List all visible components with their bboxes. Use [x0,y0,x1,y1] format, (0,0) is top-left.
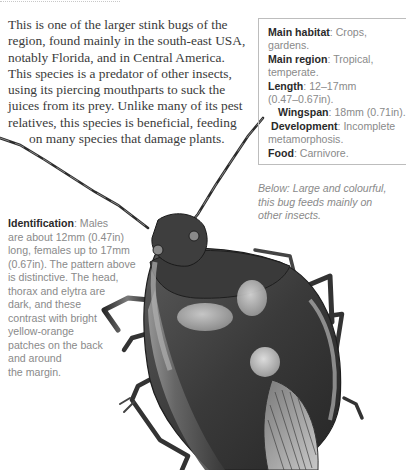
caption-line: this bug feeds mainly on [258,196,403,210]
caption-line: Below: Large and colourful, [258,182,403,196]
intro-line: relatives, this species is beneficial, f… [8,115,248,131]
identification-line: long, females up to 17mm [8,244,143,258]
fact-habitat: Main habitat: Crops, [268,26,406,39]
identification-line: and around [8,352,143,366]
fact-length-cont: (0.47–0.67in). [268,93,406,106]
identification-line: is distinctive. The head, [8,271,143,285]
fact-label: Main region [268,53,327,65]
page-top-edge [0,0,406,4]
identification-line: thorax and elytra are [8,285,143,299]
facts-box: Main habitat: Crops, gardens. Main regio… [258,18,406,165]
identification-first: : Males [74,217,108,229]
identification-line: patches on the back [8,339,143,353]
fact-value: : Crops, [330,26,367,38]
fact-habitat-cont: gardens. [268,39,406,52]
intro-line: juices from its prey. Unlike many of its… [8,98,248,114]
intro-line: region, found mainly in the south-east U… [8,33,248,49]
identification-heading: Identification: Males [8,217,143,231]
caption-line: other insects. [258,209,403,223]
fact-label: Main habitat [268,26,330,38]
fact-value: : Incomplete [338,120,396,132]
intro-line: This species is a predator of other inse… [8,66,248,82]
fact-value: : 12–17mm [303,80,356,92]
fact-value: : Carnivore. [294,147,349,159]
fact-label: Length [268,80,303,92]
identification-label: Identification [8,217,74,229]
intro-line: This is one of the larger stink bugs of … [8,17,248,33]
intro-paragraph: This is one of the larger stink bugs of … [8,17,248,147]
fact-value: : Tropical, [327,53,373,65]
fact-length: Length: 12–17mm [268,80,406,93]
fact-label: Food [268,147,294,159]
fact-value: : 18mm (0.71in). [329,106,406,118]
identification-line: are about 12mm (0.47in) [8,231,143,245]
fact-label: Wingspan [278,106,329,118]
intro-line: on many species that damage plants. [8,131,248,147]
fact-food: Food: Carnivore. [268,147,406,160]
identification-line: dark, and these [8,298,143,312]
fact-label: Development [271,120,338,132]
intro-line: using its piercing mouthparts to suck th… [8,82,248,98]
fact-region: Main region: Tropical, [268,53,406,66]
identification-line: (0.67in). The pattern above [8,258,143,272]
fact-region-cont: temperate. [268,66,406,79]
identification-line: the margin. [8,366,143,380]
intro-line: notably Florida, and in Central America. [8,50,248,66]
image-caption: Below: Large and colourful, this bug fee… [258,182,403,223]
fact-development: Development: Incomplete [268,120,406,133]
fact-development-cont: metamorphosis. [268,133,406,146]
identification-line: contrast with bright [8,312,143,326]
identification-paragraph: Identification: Males are about 12mm (0.… [8,217,143,379]
identification-line: yellow-orange [8,325,143,339]
fact-wingspan: Wingspan: 18mm (0.71in). [268,106,406,119]
